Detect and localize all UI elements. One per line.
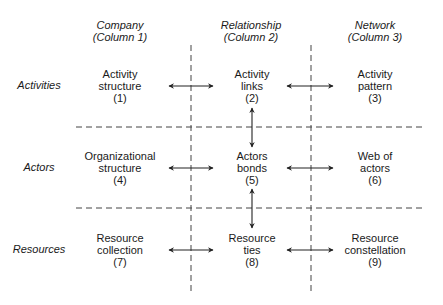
column-header-relationship: Relationship (Column 2) — [196, 19, 306, 43]
row-label-resources: Resources — [8, 243, 70, 255]
column-header-company: Company (Column 1) — [65, 19, 175, 43]
row-label-activities: Activities — [8, 79, 70, 91]
column-header-network: Network (Column 3) — [320, 19, 430, 43]
cell-web-of-actors: Web of actors (6) — [320, 150, 430, 186]
cell-resource-constellation: Resource constellation (9) — [320, 232, 430, 268]
row-label-actors: Actors — [8, 161, 70, 173]
cell-resource-collection: Resource collection (7) — [65, 232, 175, 268]
cell-organizational-structure: Organizational structure (4) — [65, 150, 175, 186]
network-matrix-diagram: Company (Column 1) Relationship (Column … — [0, 0, 443, 305]
cell-resource-ties: Resource ties (8) — [197, 232, 307, 268]
cell-activity-pattern: Activity pattern (3) — [320, 68, 430, 104]
cell-activity-links: Activity links (2) — [197, 68, 307, 104]
cell-actors-bonds: Actors bonds (5) — [197, 150, 307, 186]
cell-activity-structure: Activity structure (1) — [65, 68, 175, 104]
